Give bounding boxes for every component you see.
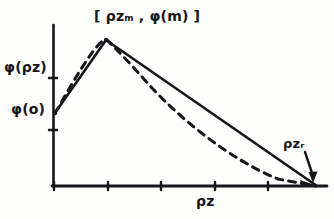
rho-z-r-label: ρzᵣ — [283, 136, 305, 151]
x-axis-label: ρz — [196, 193, 215, 209]
solid-piecewise-curve — [55, 40, 317, 186]
dashed-smoothed-curve — [55, 39, 316, 186]
hand-drawn-figure: [ ρzₘ , φ(m) ] φ(ρz) φ(o) ρz ρzᵣ — [0, 0, 334, 219]
phi-zero-label: φ(o) — [11, 101, 45, 117]
y-axis-label: φ(ρz) — [4, 59, 47, 75]
peak-marker — [104, 38, 108, 42]
plot-canvas — [0, 0, 334, 219]
phi-zero-marker — [53, 111, 57, 115]
peak-coordinate-label: [ ρzₘ , φ(m) ] — [94, 8, 200, 24]
